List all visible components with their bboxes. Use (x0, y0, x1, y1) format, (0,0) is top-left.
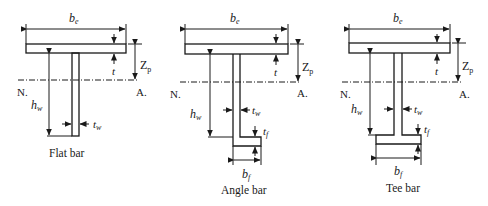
svg-text:tw: tw (93, 118, 102, 132)
tee-bar-labels: be t Zp N. A. hw tw tf bf Tee bar (340, 11, 473, 194)
svg-text:Zp: Zp (462, 59, 473, 75)
svg-text:N.: N. (170, 88, 181, 100)
angle-bar-labels: be t Zp N. A. hw tw tf bf Angle bar (170, 11, 313, 197)
tee-plate-flange (349, 43, 450, 53)
svg-text:A.: A. (297, 87, 308, 99)
svg-text:tw: tw (252, 104, 261, 118)
svg-text:t: t (112, 65, 116, 77)
svg-text:tw: tw (414, 103, 423, 117)
svg-text:hw: hw (31, 98, 43, 113)
svg-text:Zp: Zp (140, 58, 151, 74)
flat-web (72, 53, 79, 136)
angle-web-and-flange (233, 54, 261, 146)
svg-text:N.: N. (340, 88, 351, 100)
tee-bar-panel (342, 24, 466, 165)
svg-text:be: be (393, 11, 403, 26)
stiffener-sections-diagram: be t Zp N. A. hw tw Flat bar (0, 0, 488, 206)
svg-text:A.: A. (136, 86, 147, 98)
svg-text:bf: bf (242, 167, 252, 182)
flat-bar-caption: Flat bar (49, 147, 85, 159)
svg-text:tf: tf (263, 125, 270, 139)
flat-bar-labels: be t Zp N. A. hw tw Flat bar (17, 11, 151, 159)
svg-text:Zp: Zp (302, 60, 313, 76)
svg-text:be: be (69, 11, 79, 26)
svg-text:A.: A. (459, 88, 470, 100)
svg-text:N.: N. (17, 86, 28, 98)
tee-bar-caption: Tee bar (386, 182, 420, 194)
svg-text:t: t (435, 65, 439, 77)
svg-text:hw: hw (190, 107, 202, 122)
svg-text:t: t (274, 66, 278, 78)
svg-text:bf: bf (394, 164, 404, 179)
tee-web-and-flange (376, 53, 421, 144)
svg-text:hw: hw (351, 102, 363, 117)
flat-bar-panel (18, 24, 142, 136)
svg-text:tf: tf (424, 123, 431, 137)
angle-plate-flange (185, 44, 288, 54)
angle-bar-caption: Angle bar (221, 184, 267, 197)
flat-plate-flange (26, 44, 126, 53)
angle-bar-panel (180, 24, 304, 165)
svg-text:be: be (230, 11, 240, 26)
